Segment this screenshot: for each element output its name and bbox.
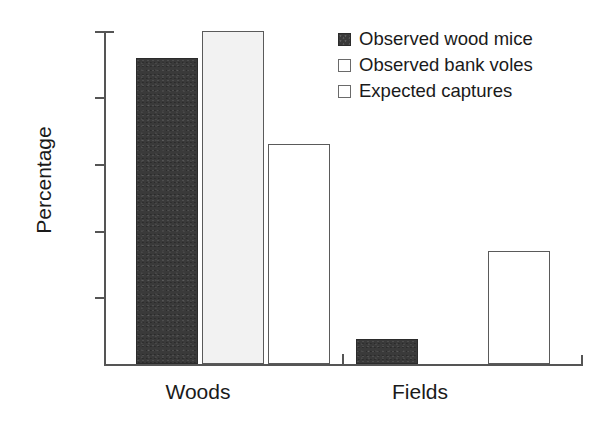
legend-label-observed-wood-mice: Observed wood mice xyxy=(359,26,533,52)
y-tick-mark-20 xyxy=(95,297,105,299)
bar-fields-expected-captures xyxy=(488,251,550,364)
bar-fields-observed-wood-mice xyxy=(356,339,418,364)
legend-item-expected-captures: Expected captures xyxy=(338,78,533,104)
legend-swatch-icon-white xyxy=(338,85,351,98)
y-tick-mark-40 xyxy=(95,231,105,233)
y-tick-mark-100 xyxy=(95,31,105,33)
y-axis-top-cap xyxy=(104,31,114,33)
y-axis-title: Percentage xyxy=(32,60,56,300)
chart-legend: Observed wood mice Observed bank voles E… xyxy=(338,26,533,104)
y-axis-line xyxy=(104,31,106,364)
x-category-label-fields: Fields xyxy=(355,380,485,404)
legend-item-observed-wood-mice: Observed wood mice xyxy=(338,26,533,52)
x-axis-end-cap xyxy=(581,355,583,366)
bar-woods-observed-wood-mice xyxy=(136,58,198,364)
bar-woods-observed-bank-voles xyxy=(202,31,264,364)
x-axis-center-tick xyxy=(342,354,344,365)
y-tick-mark-60 xyxy=(95,164,105,166)
bar-woods-expected-captures xyxy=(268,144,330,364)
legend-item-observed-bank-voles: Observed bank voles xyxy=(338,52,533,78)
legend-label-observed-bank-voles: Observed bank voles xyxy=(359,52,533,78)
x-category-label-woods: Woods xyxy=(133,380,263,404)
legend-swatch-icon-dark xyxy=(338,33,351,46)
legend-label-expected-captures: Expected captures xyxy=(359,78,512,104)
legend-swatch-icon-light xyxy=(338,59,351,72)
y-tick-mark-80 xyxy=(95,97,105,99)
bar-chart-figure: Percentage 100 80 60 40 20 0 Woods Field… xyxy=(0,0,603,429)
